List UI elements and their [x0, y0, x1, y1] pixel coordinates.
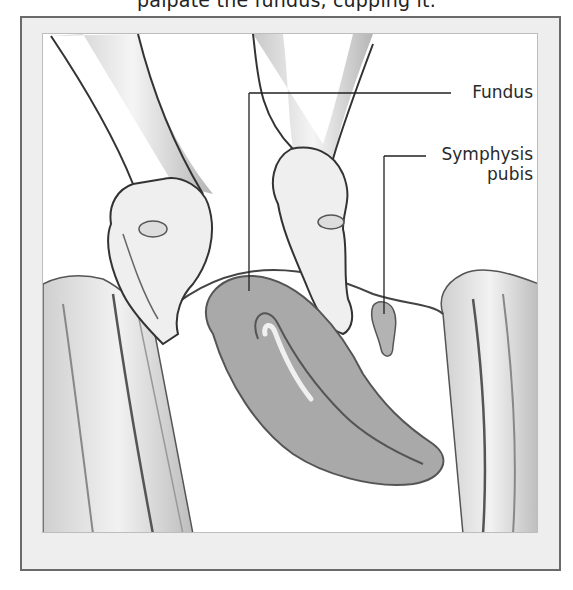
- fundus-label-text: Fundus: [472, 82, 533, 102]
- symphysis-label-line2: pubis: [428, 164, 533, 184]
- illustration-panel: Fundus Symphysis pubis: [42, 33, 538, 533]
- symphysis-label-line1: Symphysis: [428, 144, 533, 164]
- palpation-illustration: [43, 34, 538, 533]
- figure-caption: palpate the fundus, cupping it.: [0, 0, 573, 11]
- symphysis-leader-line: [384, 156, 426, 314]
- right-drape: [441, 270, 538, 533]
- fundus-label: Fundus: [453, 82, 533, 102]
- symphysis-pubis-label: Symphysis pubis: [428, 144, 533, 184]
